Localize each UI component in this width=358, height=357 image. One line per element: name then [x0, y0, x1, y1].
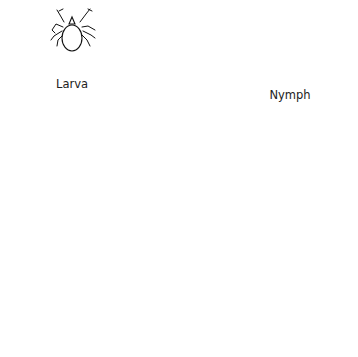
- tick-life-stages-illustration: [0, 0, 358, 357]
- nymph-label: Nymph: [250, 88, 330, 102]
- larva-tick-drawing: [51, 9, 95, 51]
- larva-label: Larva: [32, 77, 112, 91]
